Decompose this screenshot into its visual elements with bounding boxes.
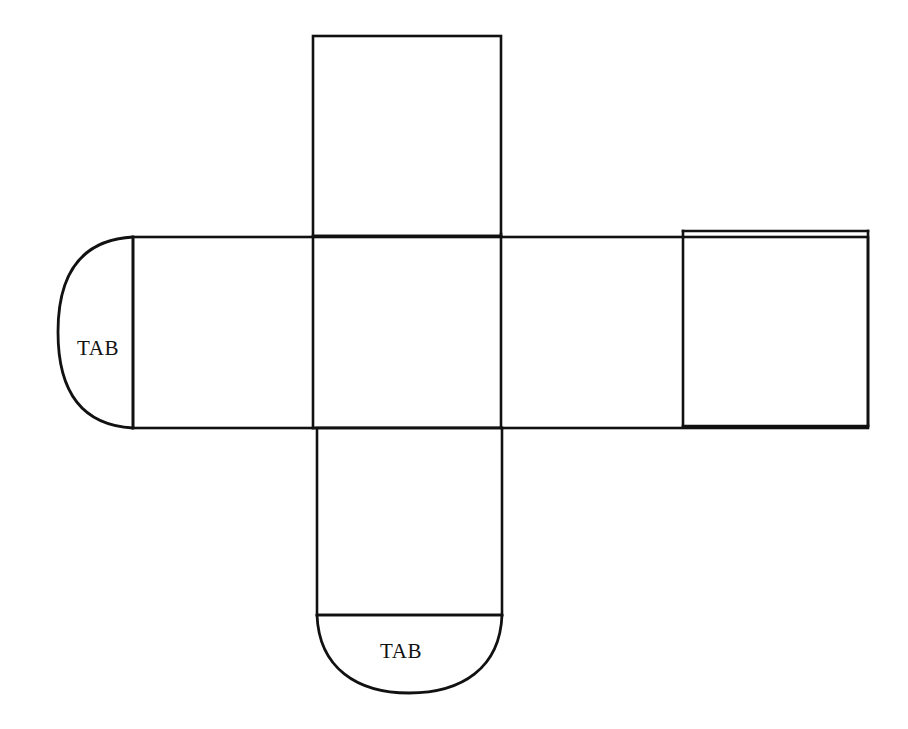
cube-net-figure: TAB TAB bbox=[0, 0, 908, 729]
diagram-canvas: TAB TAB bbox=[0, 0, 908, 729]
face-bottom bbox=[317, 428, 502, 615]
tab-left-label: TAB bbox=[77, 336, 119, 360]
tab-bottom-label: TAB bbox=[380, 639, 422, 663]
tab-left-shape bbox=[58, 237, 133, 428]
face-top bbox=[313, 36, 501, 236]
